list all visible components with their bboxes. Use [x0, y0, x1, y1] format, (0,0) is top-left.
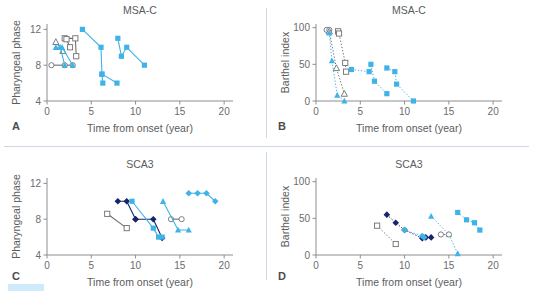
series-line [118, 38, 145, 65]
x-axis-label: Time from onset (year) [356, 276, 462, 288]
y-tick-label: 8 [35, 60, 41, 71]
y-tick-label: 0 [304, 96, 310, 107]
y-tick-label: 0 [304, 250, 310, 261]
x-tick-label: 0 [44, 260, 50, 271]
panel-a: MSA-C051015204812Time from onset (year)P… [0, 0, 266, 146]
y-tick-label: 4 [35, 96, 41, 107]
panel-b: MSA-C05101520050100Time from onset (year… [266, 0, 533, 146]
x-tick-label: 0 [313, 106, 319, 117]
y-tick-label: 50 [299, 213, 311, 224]
series-line [189, 193, 216, 201]
data-series [168, 217, 184, 222]
panel-title: MSA-C [123, 4, 157, 16]
data-series [438, 232, 451, 237]
x-axis-label: Time from onset (year) [87, 276, 193, 288]
x-tick-label: 15 [443, 106, 455, 117]
x-tick-label: 15 [174, 106, 186, 117]
panel-title: SCA3 [126, 158, 154, 170]
figure-root: A B C D MSA-C051015204812Time from onset… [0, 0, 533, 293]
x-tick-label: 0 [44, 106, 50, 117]
data-series [384, 65, 416, 103]
x-tick-label: 20 [219, 260, 231, 271]
axis-lines [47, 178, 233, 255]
data-series [375, 223, 399, 247]
x-tick-label: 20 [488, 106, 500, 117]
series-line [163, 201, 189, 230]
panel-a-plot: MSA-C051015204812Time from onset (year)P… [0, 0, 266, 146]
y-tick-label: 50 [299, 59, 311, 70]
y-tick-label: 100 [293, 22, 310, 33]
panel-d-plot: SCA305101520050100Time from onset (year)… [266, 146, 533, 293]
data-series [349, 62, 390, 97]
x-tick-label: 20 [219, 106, 231, 117]
x-tick-label: 10 [399, 106, 411, 117]
series-line [351, 64, 386, 93]
data-series [105, 211, 130, 231]
data-series [160, 198, 192, 232]
x-tick-label: 15 [174, 260, 186, 271]
panel-title: MSA-C [392, 4, 426, 16]
y-axis-label: Pharyngeal phase [10, 20, 22, 105]
y-tick-label: 4 [35, 250, 41, 261]
x-tick-label: 0 [313, 260, 319, 271]
data-series [115, 36, 147, 68]
x-tick-label: 10 [399, 260, 411, 271]
panel-title: SCA3 [395, 158, 423, 170]
x-tick-label: 5 [358, 260, 364, 271]
x-tick-label: 20 [488, 260, 500, 271]
panel-d: SCA305101520050100Time from onset (year)… [266, 146, 533, 293]
x-axis-label: Time from onset (year) [356, 122, 462, 134]
y-axis-label: Barthel index [279, 185, 291, 247]
y-tick-label: 12 [30, 178, 42, 189]
panel-c-plot: SCA3051015204812Time from onset (year)Ph… [0, 146, 266, 293]
data-series [455, 210, 482, 233]
data-series [401, 227, 427, 241]
x-tick-label: 10 [130, 260, 142, 271]
y-tick-label: 12 [30, 24, 42, 35]
y-tick-label: 100 [293, 176, 310, 187]
x-tick-label: 15 [443, 260, 455, 271]
panel-b-plot: MSA-C05101520050100Time from onset (year… [266, 0, 533, 146]
x-tick-label: 10 [130, 106, 142, 117]
y-tick-label: 8 [35, 214, 41, 225]
y-axis-label: Pharyngeal phase [10, 174, 22, 259]
x-axis-label: Time from onset (year) [87, 122, 193, 134]
data-series [80, 27, 106, 86]
series-line [387, 68, 414, 101]
x-tick-label: 5 [89, 106, 95, 117]
x-tick-label: 5 [358, 106, 364, 117]
data-series [185, 190, 218, 205]
y-axis-label: Barthel index [279, 31, 291, 93]
panel-c: SCA3051015204812Time from onset (year)Ph… [0, 146, 266, 293]
x-tick-label: 5 [89, 260, 95, 271]
axis-lines [316, 178, 502, 255]
